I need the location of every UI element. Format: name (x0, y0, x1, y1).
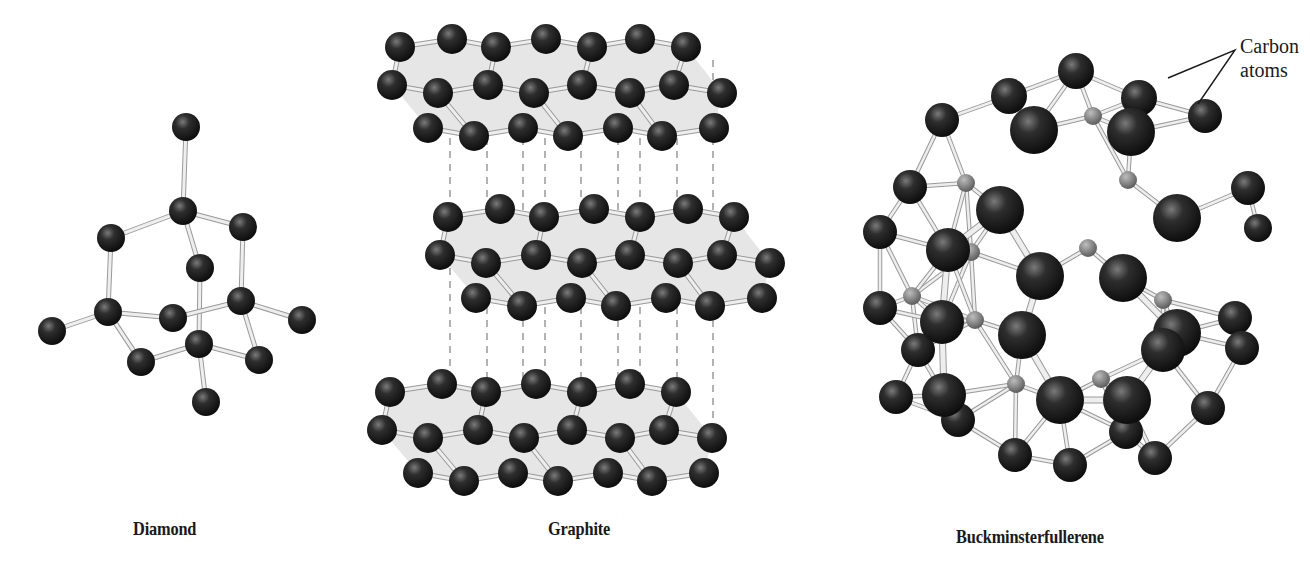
callout-leader-lines (0, 0, 1310, 567)
caption-graphite: Graphite (548, 518, 610, 540)
callout-leader-line (1168, 50, 1235, 104)
figure-canvas: Diamond Graphite Buckminsterfullerene Ca… (0, 0, 1310, 567)
callout-line-1: Carbon (1240, 34, 1299, 58)
caption-diamond: Diamond (133, 518, 196, 540)
caption-buckminsterfullerene: Buckminsterfullerene (956, 526, 1104, 548)
carbon-atoms-callout: Carbon atoms (1240, 34, 1299, 82)
callout-line-2: atoms (1240, 58, 1299, 82)
